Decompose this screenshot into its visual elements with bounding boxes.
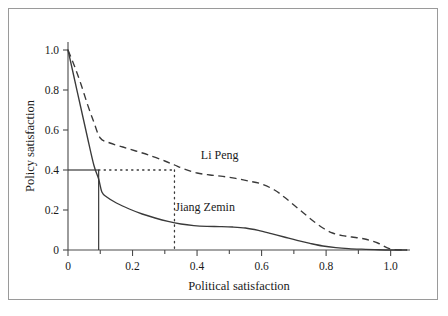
x-tick-label: 0.8: [319, 260, 334, 272]
series-label-jiang-zemin: Jiang Zemin: [175, 200, 235, 214]
y-axis-title: Policy satisfaction: [23, 99, 37, 192]
y-tick-label: 0.8: [45, 84, 60, 96]
labels-group: Political satisfactionPolicy satisfactio…: [23, 99, 291, 293]
y-tick-label: 0.4: [45, 164, 60, 176]
x-tick-label: 1.0: [383, 260, 398, 272]
y-tick-label: 0.2: [45, 204, 60, 216]
figure-container: 00.20.40.60.81.000.20.40.60.81.0 Politic…: [0, 0, 448, 316]
series-label-li-peng: Li Peng: [201, 148, 239, 162]
x-tick-label: 0.2: [125, 260, 140, 272]
x-axis-title: Political satisfaction: [188, 279, 290, 293]
x-tick-label: 0: [65, 260, 71, 272]
x-tick-label: 0.6: [254, 260, 269, 272]
y-tick-label: 1.0: [45, 44, 60, 56]
y-tick-label: 0.6: [45, 124, 60, 136]
chart-plot: 00.20.40.60.81.000.20.40.60.81.0 Politic…: [0, 0, 448, 316]
y-tick-label: 0: [53, 244, 59, 256]
reference-lines-group: [68, 170, 174, 250]
x-tick-label: 0.4: [190, 260, 205, 272]
